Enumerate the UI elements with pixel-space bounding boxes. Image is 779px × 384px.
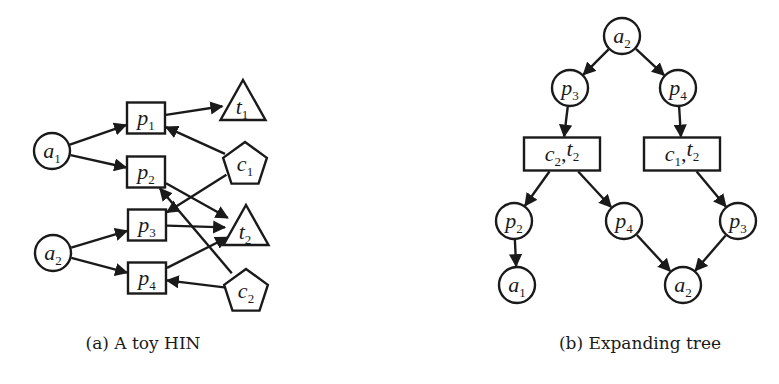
edge-l1_p3-to-l2_c2t2: [564, 107, 568, 137]
edge-c1-to-p1: [166, 127, 225, 154]
node-c2: c2: [224, 269, 268, 311]
edge-c2-to-p4: [167, 280, 224, 287]
edge-l3_p4-to-l4_a2: [637, 235, 670, 271]
edge-a2-to-p4: [71, 258, 127, 273]
node-t2: t2: [224, 205, 269, 247]
edge-a1-to-p2: [71, 155, 126, 167]
node-root_a2: a2: [604, 18, 640, 54]
node-c1: c1: [223, 142, 267, 184]
panel-toy-hin: a1a2p1p2p3p4t1t2c1c2: [34, 80, 269, 311]
edge-p3-to-t2: [167, 226, 225, 228]
edge-a2-to-p3: [71, 231, 127, 248]
node-l3_p4: p4: [606, 203, 642, 239]
edge-root_a2-to-l1_p4: [636, 49, 664, 75]
edge-l2_c2t2-to-l3_p2: [525, 172, 549, 206]
edge-l2_c2t2-to-l3_p4: [578, 172, 611, 208]
edge-p1-to-t1: [166, 106, 222, 115]
nodes-layer: a2p3p4c2,t2c1,t2p2p4p3a1a2: [496, 18, 756, 303]
edge-l2_c1t2-to-l3_p3: [697, 172, 726, 207]
node-l2_c1t2: c1,t2: [644, 136, 720, 171]
edge-l3_p3-to-l4_a2: [695, 235, 725, 270]
node-p2: p2: [127, 157, 165, 188]
node-l1_p3: p3: [552, 70, 588, 106]
caption-toy-hin: (a) A toy HIN: [86, 333, 201, 353]
caption-expanding-tree: (b) Expanding tree: [559, 333, 721, 353]
node-l3_p2: p2: [496, 203, 532, 239]
node-l2_c2t2: c2,t2: [524, 136, 600, 171]
figure-canvas: a1a2p1p2p3p4t1t2c1c2 a2p3p4c2,t2c1,t2p2p…: [0, 0, 779, 384]
edge-l3_p2-to-l4_a1: [515, 240, 516, 266]
edge-l1_p4-to-l2_c1t2: [679, 107, 681, 137]
panel-expanding-tree: a2p3p4c2,t2c1,t2p2p4p3a1a2: [496, 18, 756, 303]
node-t1: t1: [221, 80, 266, 122]
node-l3_p3: p3: [720, 203, 756, 239]
edge-root_a2-to-l1_p3: [583, 49, 608, 74]
node-a1: a1: [34, 133, 70, 169]
node-p4: p4: [128, 263, 166, 294]
nodes-layer: a1a2p1p2p3p4t1t2c1c2: [34, 80, 269, 311]
node-a2: a2: [35, 235, 71, 271]
node-l1_p4: p4: [660, 70, 696, 106]
edge-p4-to-t2: [167, 237, 227, 267]
node-p1: p1: [127, 103, 165, 134]
node-l4_a2: a2: [665, 267, 701, 303]
edge-a1-to-p1: [70, 125, 126, 145]
edge-p2-to-t2: [166, 183, 228, 218]
node-p3: p3: [128, 210, 166, 241]
node-l4_a1: a1: [499, 267, 535, 303]
